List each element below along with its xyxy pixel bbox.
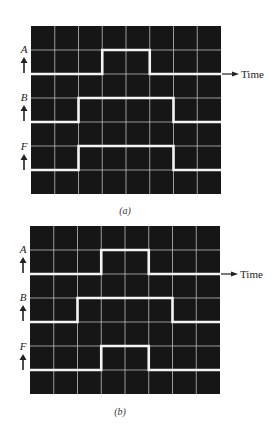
up-arrow-icon bbox=[19, 105, 29, 121]
oscilloscope-screen-b bbox=[0, 212, 271, 424]
up-arrow-icon bbox=[19, 57, 29, 73]
panel-b: A B F Time (b) bbox=[0, 212, 271, 424]
up-arrow-icon bbox=[18, 305, 28, 321]
time-arrow-icon bbox=[221, 271, 238, 277]
signal-label-f: F bbox=[17, 141, 31, 152]
signal-label-a: A bbox=[17, 44, 31, 55]
panel-a: A B F Time (a) bbox=[0, 0, 271, 212]
signal-label-a: A bbox=[16, 244, 30, 255]
oscilloscope-screen-a bbox=[0, 0, 271, 212]
time-arrow-icon bbox=[222, 71, 239, 77]
up-arrow-icon bbox=[18, 354, 28, 370]
up-arrow-icon bbox=[18, 257, 28, 273]
signal-label-f: F bbox=[16, 341, 30, 352]
time-axis-label: Time bbox=[240, 268, 263, 280]
time-axis-label: Time bbox=[241, 68, 264, 80]
signal-label-b: B bbox=[17, 92, 31, 103]
caption-b: (b) bbox=[100, 406, 140, 418]
up-arrow-icon bbox=[19, 154, 29, 170]
signal-label-b: B bbox=[16, 292, 30, 303]
